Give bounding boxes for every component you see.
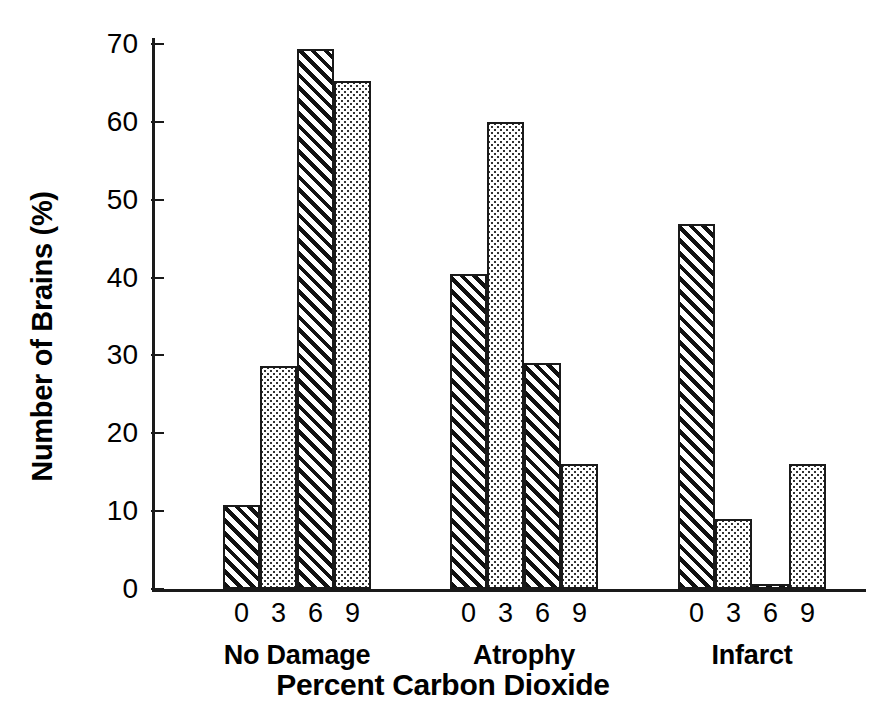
bar-infarct-6 <box>752 584 789 589</box>
y-tick-label-10: 10 <box>86 497 138 525</box>
bar-infarct-3 <box>715 519 752 589</box>
x-tick-label-infarct-9: 9 <box>783 600 832 627</box>
y-tick-mark-40 <box>151 277 164 279</box>
bar-infarct-9 <box>789 464 826 589</box>
y-tick-mark-70 <box>151 43 164 45</box>
bar-atrophy-3 <box>487 122 524 589</box>
y-tick-label-0: 0 <box>86 575 138 603</box>
y-tick-label-50: 50 <box>86 186 138 214</box>
x-axis-line <box>152 589 866 592</box>
y-axis-label: Number of Brains (%) <box>26 127 59 547</box>
bar-no-damage-6 <box>297 49 334 589</box>
y-tick-label-40: 40 <box>86 264 138 292</box>
y-tick-label-60: 60 <box>86 108 138 136</box>
bar-atrophy-9 <box>561 464 598 589</box>
y-tick-mark-50 <box>151 199 164 201</box>
y-tick-label-70: 70 <box>86 30 138 58</box>
x-axis-label: Percent Carbon Dioxide <box>0 668 886 702</box>
y-tick-mark-10 <box>151 510 164 512</box>
y-tick-mark-20 <box>151 432 164 434</box>
y-tick-mark-30 <box>151 354 164 356</box>
bar-atrophy-0 <box>450 274 487 589</box>
bar-infarct-0 <box>678 224 715 589</box>
bar-chart-figure: Number of Brains (%) 010203040506070 036… <box>0 0 886 724</box>
bar-no-damage-0 <box>223 505 260 589</box>
y-tick-mark-60 <box>151 121 164 123</box>
bar-no-damage-9 <box>334 81 371 589</box>
plot-area: 010203040506070 036903690369 No DamageAt… <box>152 38 866 592</box>
y-tick-mark-0 <box>151 588 164 590</box>
x-tick-label-atrophy-9: 9 <box>555 600 604 627</box>
y-tick-label-20: 20 <box>86 419 138 447</box>
bar-atrophy-6 <box>524 363 561 589</box>
x-tick-label-no-damage-9: 9 <box>328 600 377 627</box>
group-label-infarct: Infarct <box>618 642 886 669</box>
y-tick-label-30: 30 <box>86 341 138 369</box>
bar-no-damage-3 <box>260 366 297 589</box>
